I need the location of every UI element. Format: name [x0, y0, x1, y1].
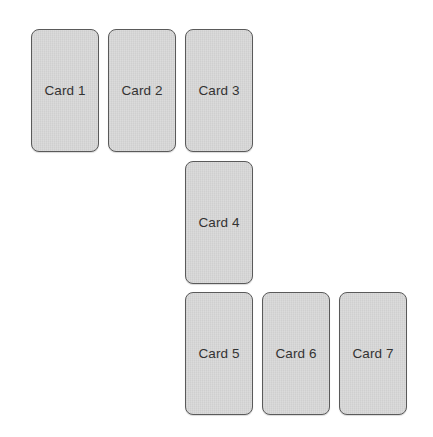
card-layout-diagram: Card 1 Card 2 Card 3 Card 4 Card 5 Card … — [0, 0, 433, 437]
card-label: Card 1 — [44, 83, 85, 98]
card-5: Card 5 — [185, 292, 253, 415]
card-label: Card 7 — [352, 346, 393, 361]
card-label: Card 2 — [121, 83, 162, 98]
card-7: Card 7 — [339, 292, 407, 415]
card-6: Card 6 — [262, 292, 330, 415]
card-3: Card 3 — [185, 29, 253, 152]
card-label: Card 6 — [275, 346, 316, 361]
card-2: Card 2 — [108, 29, 176, 152]
card-label: Card 5 — [198, 346, 239, 361]
card-1: Card 1 — [31, 29, 99, 152]
card-label: Card 3 — [198, 83, 239, 98]
card-label: Card 4 — [198, 215, 239, 230]
card-4: Card 4 — [185, 161, 253, 284]
